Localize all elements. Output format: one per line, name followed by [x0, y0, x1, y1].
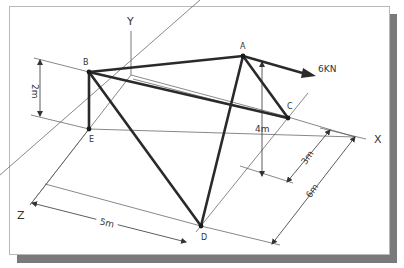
dimension-4m: 4m	[255, 62, 270, 176]
node-label-A: A	[240, 42, 246, 51]
node-label-D: D	[201, 233, 207, 242]
dim-2m-label: 2m	[30, 84, 40, 99]
node-D	[199, 224, 204, 229]
load-label: 6KN	[318, 64, 336, 74]
y-axis-label: Y	[126, 15, 134, 28]
dimension-3m: 3m	[287, 130, 330, 182]
node-label-E: E	[89, 135, 94, 144]
x-axis-label: X	[374, 133, 382, 146]
y-axis: Y	[126, 15, 134, 75]
node-B	[87, 70, 92, 75]
z-axis-label: Z	[17, 209, 25, 222]
node-A	[241, 54, 246, 59]
construction-lines	[0, 0, 366, 245]
node-label-B: B	[83, 58, 89, 67]
node-label-C: C	[287, 102, 293, 111]
dimension-5m: 5m	[32, 203, 186, 242]
dimension-2m: 2m	[30, 60, 40, 116]
member-AD	[201, 56, 243, 226]
dim-5m-label: 5m	[99, 216, 115, 229]
member-BA	[89, 56, 243, 72]
node-C	[286, 116, 291, 121]
node-E	[87, 127, 92, 132]
truss-diagram: Y 2m 4m	[0, 0, 404, 268]
node-labels: A B C D E	[83, 42, 293, 242]
truss-members	[89, 56, 288, 226]
dim-4m-label: 4m	[255, 124, 270, 134]
